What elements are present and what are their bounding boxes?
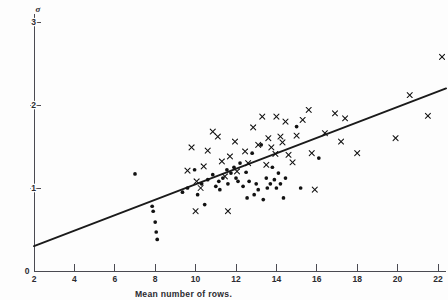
data-point-cross [294,133,299,138]
x-tick-label: 2 [32,274,37,284]
tick-marks-group [30,22,438,271]
data-point-dot [261,198,265,202]
data-point-cross [300,117,305,122]
data-point-dot [150,204,154,208]
data-point-cross [235,169,240,174]
data-point-cross [312,187,317,192]
data-point-dot [232,165,236,169]
data-point-dot [214,184,218,188]
data-point-cross [269,145,274,150]
data-point-cross [332,111,337,116]
data-point-dot [218,188,222,192]
data-point-cross [193,209,198,214]
x-tick-label: 14 [272,274,282,284]
regression-line [34,88,446,246]
data-point-dot [284,176,288,180]
data-point-dot [279,182,283,186]
dot-markers-group [133,125,321,242]
data-point-cross [425,113,430,118]
data-point-cross [309,151,314,156]
data-point-dot [196,193,200,197]
data-point-cross [393,136,398,141]
data-point-cross [343,116,348,121]
data-point-cross [264,162,269,167]
data-point-cross [205,148,210,153]
x-tick-label: 6 [112,274,117,284]
data-point-dot [245,196,249,200]
data-point-cross [339,139,344,144]
data-point-dot [206,178,210,182]
data-point-dot [250,151,254,155]
y-tick-label: 0 [25,266,30,276]
data-point-cross [243,149,248,154]
data-point-dot [234,176,238,180]
data-point-dot [247,180,251,184]
y-tick-label: 2 [31,100,36,110]
data-point-cross [225,209,230,214]
data-point-cross [407,93,412,98]
x-tick-label: 10 [191,274,201,284]
data-point-dot [225,168,229,172]
data-point-dot [217,180,221,184]
data-point-cross [251,125,256,130]
scatter-plot-figure: 2468101214161820220123 σ Mean number of … [0,0,448,300]
data-point-dot [193,168,197,172]
data-point-cross [260,114,265,119]
data-point-dot [254,182,258,186]
data-point-cross [286,152,291,157]
data-point-dot [236,180,240,184]
data-point-dot [155,238,159,242]
data-point-cross [278,134,283,139]
data-point-dot [203,203,207,207]
data-point-dot [133,172,137,176]
data-point-dot [153,220,157,224]
x-tick-label: 4 [72,274,77,284]
data-point-dot [252,193,256,197]
data-point-cross [210,129,215,134]
data-point-cross [227,154,232,159]
x-tick-label: 20 [393,274,403,284]
data-point-cross [355,151,360,156]
data-point-cross [215,134,220,139]
data-point-dot [273,178,277,182]
data-point-dot [265,186,269,190]
cross-markers-group [185,54,445,213]
data-point-dot [295,125,299,129]
data-point-cross [189,145,194,150]
data-point-cross [290,160,295,165]
data-point-dot [264,176,268,180]
data-point-dot [154,230,158,234]
regression-line-group [34,88,446,246]
data-point-cross [283,119,288,124]
data-point-cross [185,168,190,173]
data-point-dot [211,173,215,177]
x-tick-label: 8 [153,274,158,284]
data-point-dot [299,186,303,190]
x-tick-label: 16 [312,274,322,284]
data-point-cross [306,107,311,112]
axes-group [34,14,446,271]
x-tick-label: 12 [231,274,241,284]
y-tick-label: 1 [31,183,36,193]
x-tick-label: 22 [433,274,443,284]
data-point-cross [274,114,279,119]
data-point-cross [219,159,224,164]
data-point-dot [277,171,281,175]
x-axis-title: Mean number of rows. [135,289,232,299]
data-point-dot [268,182,272,186]
y-axis-title: σ [36,4,42,14]
data-point-dot [229,171,233,175]
data-point-dot [241,184,245,188]
tick-labels-group: 2468101214161820220123 [25,17,443,284]
data-point-cross [201,164,206,169]
data-point-cross [266,136,271,141]
data-point-dot [244,170,248,174]
data-point-cross [440,54,445,59]
x-tick-label: 18 [352,274,362,284]
data-point-dot [275,186,279,190]
data-point-dot [181,190,185,194]
plot-canvas: 2468101214161820220123 σ Mean number of … [0,0,448,300]
data-point-dot [282,196,286,200]
data-point-dot [151,209,155,213]
data-point-dot [186,186,190,190]
